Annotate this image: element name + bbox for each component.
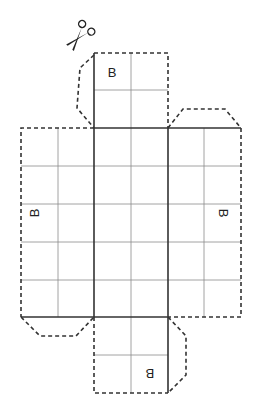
top-face-label: B	[108, 65, 117, 80]
grid-lines	[21, 53, 241, 393]
left-face-label: B	[27, 209, 42, 218]
right-face-label: B	[216, 209, 231, 218]
cube-net-diagram: B B B B	[0, 0, 262, 412]
bottom-face-label: B	[146, 366, 155, 381]
scissors-icon	[63, 19, 97, 54]
